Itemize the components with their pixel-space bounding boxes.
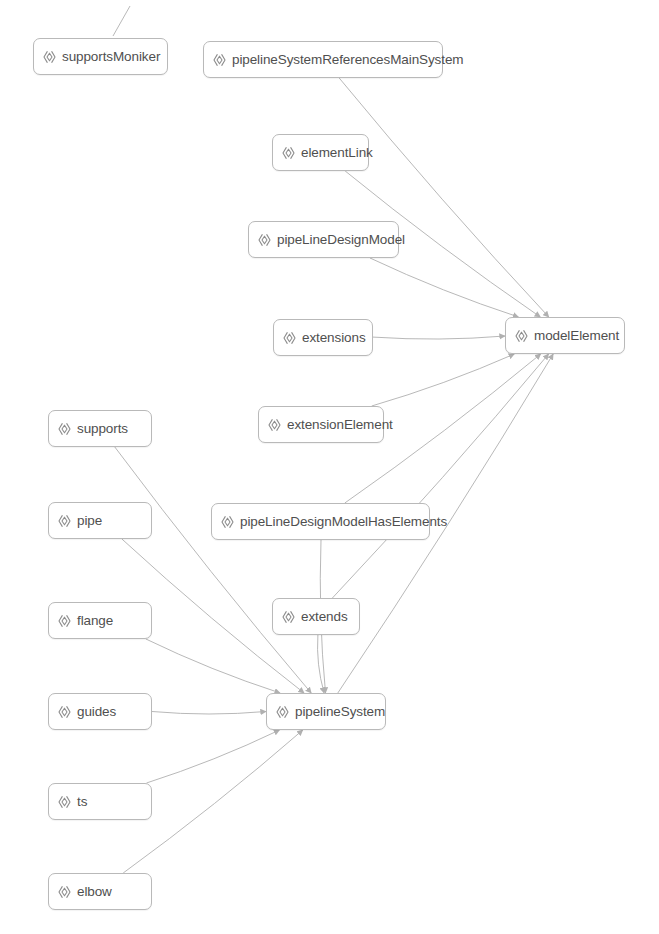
supportsMoniker-top-stub xyxy=(113,6,130,36)
angle-bracket-diamond-icon xyxy=(283,331,296,345)
node-label: flange xyxy=(77,614,113,628)
angle-bracket-diamond-icon xyxy=(515,329,528,343)
edge-supports-to-pipelineSystem[interactable] xyxy=(115,447,311,693)
edge-extends-to-pipelineSystem[interactable] xyxy=(318,635,325,693)
node-elementLink[interactable]: elementLink xyxy=(272,134,369,171)
angle-bracket-diamond-icon xyxy=(282,610,295,624)
node-label: supports xyxy=(77,422,128,436)
node-elbow[interactable]: elbow xyxy=(48,873,152,910)
node-label: modelElement xyxy=(534,329,619,343)
node-label: pipelineSystem xyxy=(295,705,385,719)
angle-bracket-diamond-icon xyxy=(258,233,271,247)
node-extensions[interactable]: extensions xyxy=(273,319,373,356)
node-label: extensionElement xyxy=(287,418,393,432)
edge-ts-to-pipelineSystem[interactable] xyxy=(147,730,280,783)
node-label: supportsMoniker xyxy=(62,50,160,64)
edge-extensionElement-to-modelElement[interactable] xyxy=(372,354,515,406)
node-label: extensions xyxy=(302,331,366,345)
node-label: pipelineSystemReferencesMainSystem xyxy=(232,53,463,67)
edge-pipelineSystemReferencesMainSystem-to-modelElement[interactable] xyxy=(339,78,549,317)
edge-flange-to-pipelineSystem[interactable] xyxy=(146,639,280,693)
node-supportsMoniker[interactable]: supportsMoniker xyxy=(33,38,168,75)
angle-bracket-diamond-icon xyxy=(276,705,289,719)
node-pipeLineDesignModel[interactable]: pipeLineDesignModel xyxy=(248,221,399,258)
angle-bracket-diamond-icon xyxy=(268,418,281,432)
edges-group xyxy=(115,78,553,873)
node-ts[interactable]: ts xyxy=(48,783,152,820)
angle-bracket-diamond-icon xyxy=(58,422,71,436)
node-guides[interactable]: guides xyxy=(48,693,152,730)
node-pipelineSystemReferencesMainSystem[interactable]: pipelineSystemReferencesMainSystem xyxy=(203,41,443,78)
angle-bracket-diamond-icon xyxy=(221,515,234,529)
edge-guides-to-pipelineSystem[interactable] xyxy=(152,712,266,715)
node-pipe[interactable]: pipe xyxy=(48,502,152,539)
node-extends[interactable]: extends xyxy=(272,598,360,635)
node-label: ts xyxy=(77,795,87,809)
edge-stubs-group xyxy=(113,6,130,36)
angle-bracket-diamond-icon xyxy=(58,795,71,809)
edge-extends-to-modelElement[interactable] xyxy=(332,354,548,598)
node-label: extends xyxy=(301,610,348,624)
angle-bracket-diamond-icon xyxy=(43,50,56,64)
node-pipelineSystem[interactable]: pipelineSystem xyxy=(266,693,386,730)
node-extensionElement[interactable]: extensionElement xyxy=(258,406,384,443)
node-label: pipeLineDesignModel xyxy=(277,233,405,247)
angle-bracket-diamond-icon xyxy=(213,53,226,67)
node-label: elbow xyxy=(77,885,112,899)
node-label: elementLink xyxy=(301,146,373,160)
node-label: pipe xyxy=(77,514,102,528)
node-pipeLineDesignModelHasElements[interactable]: pipeLineDesignModelHasElements xyxy=(211,503,430,540)
node-supports[interactable]: supports xyxy=(48,410,152,447)
node-modelElement[interactable]: modelElement xyxy=(505,317,625,354)
angle-bracket-diamond-icon xyxy=(58,514,71,528)
node-flange[interactable]: flange xyxy=(48,602,152,639)
angle-bracket-diamond-icon xyxy=(58,705,71,719)
edge-pipeLineDesignModel-to-modelElement[interactable] xyxy=(370,258,519,317)
edge-extensions-to-modelElement[interactable] xyxy=(373,336,505,339)
node-label: pipeLineDesignModelHasElements xyxy=(240,515,447,529)
angle-bracket-diamond-icon xyxy=(58,885,71,899)
angle-bracket-diamond-icon xyxy=(58,614,71,628)
diagram-canvas[interactable]: supportsMonikerpipelineSystemReferencesM… xyxy=(0,0,659,934)
angle-bracket-diamond-icon xyxy=(282,146,295,160)
node-label: guides xyxy=(77,705,116,719)
